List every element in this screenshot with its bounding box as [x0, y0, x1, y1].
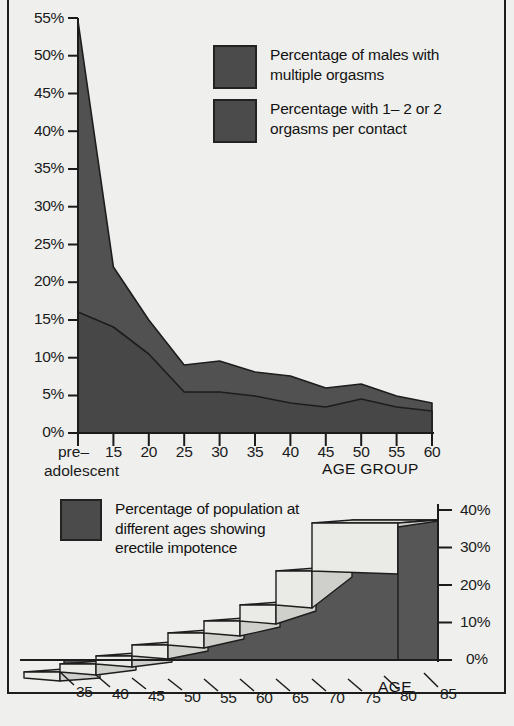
top-xtick-25: 25 [164, 443, 204, 461]
top-chart-legend: Percentage of males with multiple orgasm… [213, 44, 473, 152]
bottom-y-ticks [438, 510, 452, 660]
bottom-ytick-10: 10% [460, 613, 490, 631]
top-ytick-45: 45% [6, 84, 64, 102]
bottom-ytick-0: 0% [466, 650, 488, 668]
bottom-ytick-20: 20% [460, 576, 490, 594]
top-xtick-35: 35 [235, 443, 275, 461]
top-ytick-50: 50% [6, 46, 64, 64]
top-xtick-60: 60 [412, 443, 452, 461]
step-side-60 [204, 621, 240, 636]
bottom-xtick-50: 50 [184, 688, 201, 706]
top-xtick-30: 30 [200, 443, 240, 461]
top-xtick-45: 45 [306, 443, 346, 461]
bottom-xtick-45: 45 [148, 687, 165, 705]
legend-item-multiple-orgasms: Percentage of males with multiple orgasm… [213, 44, 473, 89]
legend-label-line1: Percentage with 1– 2 or 2 [270, 99, 442, 119]
staircase-right-wall [398, 521, 438, 660]
legend-item-erectile-impotence: Percentage of population at different ag… [60, 498, 360, 558]
top-x-axis-title: AGE GROUP [322, 460, 419, 478]
top-ytick-10: 10% [6, 348, 64, 366]
top-xtick-15: 15 [93, 443, 133, 461]
legend-item-one-two-orgasms: Percentage with 1– 2 or 2 orgasms per co… [213, 98, 473, 143]
bottom-chart-legend: Percentage of population at different ag… [60, 498, 360, 567]
step-side-35 [24, 672, 60, 681]
top-area-chart: 55% 50% 45% 40% 35% 30% 25% 20% 15% 10% … [0, 0, 514, 492]
top-ytick-30: 30% [6, 197, 64, 215]
top-ytick-0: 0% [6, 423, 64, 441]
top-ytick-20: 20% [6, 272, 64, 290]
bottom-ytick-30: 30% [460, 538, 490, 556]
top-ytick-55: 55% [6, 9, 64, 27]
legend-swatch-icon [213, 45, 257, 89]
bottom-xtick-70: 70 [328, 689, 345, 707]
legend-label-line2: multiple orgasms [270, 65, 439, 85]
top-y-ticks [68, 18, 78, 433]
legend-swatch-icon [60, 499, 102, 541]
legend-label-line1: Percentage of males with [270, 45, 439, 65]
bottom-staircase-chart: 40% 30% 20% 10% 0% 35 40 45 50 55 60 65 … [0, 480, 514, 726]
top-ytick-15: 15% [6, 310, 64, 328]
legend-label-line3: erectile impotence [115, 538, 299, 558]
bottom-xtick-35: 35 [76, 683, 93, 701]
top-ytick-35: 35% [6, 159, 64, 177]
step-side-70 [276, 571, 312, 608]
bottom-xtick-40: 40 [112, 685, 129, 703]
top-xtick-20: 20 [129, 443, 169, 461]
top-ytick-25: 25% [6, 235, 64, 253]
top-xtick-40: 40 [270, 443, 310, 461]
top-xtick-pre-adolescent-line2: adolescent [44, 462, 119, 480]
bottom-xtick-55: 55 [220, 689, 237, 707]
legend-label-line2: orgasms per contact [270, 119, 442, 139]
step-side-55 [168, 633, 204, 648]
top-xtick-pre-adolescent-line1: pre– [58, 443, 89, 461]
legend-label-line2: different ages showing [115, 519, 299, 539]
bottom-x-axis-title: AGE [378, 678, 412, 696]
bottom-xtick-85: 85 [440, 685, 457, 703]
bottom-ytick-40: 40% [460, 501, 490, 519]
legend-label-line1: Percentage of population at [115, 499, 299, 519]
top-ytick-5: 5% [6, 385, 64, 403]
step-side-65 [240, 605, 276, 624]
bottom-xtick-65: 65 [292, 689, 309, 707]
step-side-50 [132, 645, 168, 659]
bottom-xtick-60: 60 [256, 689, 273, 707]
top-xtick-50: 50 [341, 443, 381, 461]
top-ytick-40: 40% [6, 122, 64, 140]
top-xtick-55: 55 [377, 443, 417, 461]
legend-swatch-icon [213, 99, 257, 143]
